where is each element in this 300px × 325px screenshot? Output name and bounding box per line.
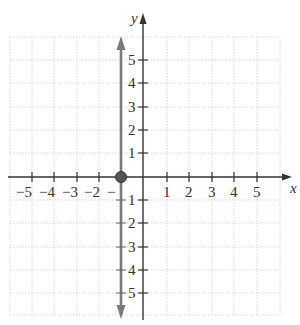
data-point [116,172,127,183]
x-tick-label: − [107,184,115,200]
line-arrow-up-icon [117,36,126,50]
y-tick-label: 5 [128,285,136,301]
x-tick-label: 3 [208,184,216,200]
x-axis-label: x [289,180,297,196]
x-tick-label: 2 [185,184,193,200]
x-tick-label: −3 [62,184,78,200]
x-tick-label: 1 [163,184,171,200]
x-tick-label: 5 [253,184,261,200]
y-tick-label: 5 [128,52,136,68]
grid [10,37,280,315]
y-tick-label: 1 [128,145,136,161]
y-tick-label: 4 [128,75,136,91]
x-tick-label: −2 [84,184,100,200]
x-axis [8,172,292,182]
y-axis-label: y [129,10,138,26]
line-arrow-down-icon [117,305,126,319]
x-tick-label: −5 [16,184,32,200]
y-tick-label: 3 [128,239,136,255]
x-tick-label: 4 [230,184,238,200]
y-axis [138,13,148,320]
y-axis-arrow-icon [140,13,147,24]
y-tick-label: 2 [128,215,136,231]
y-tick-label: 4 [128,262,136,278]
y-tick-label: 1 [128,192,136,208]
x-tick-label: −4 [39,184,55,200]
coordinate-plane: y x −5 −4 −3 −2 − 1 2 3 4 5 5 4 3 2 1 1 … [0,0,300,325]
y-tick-label: 3 [128,99,136,115]
x-tick-labels: −5 −4 −3 −2 − 1 2 3 4 5 [16,184,261,200]
y-tick-label: 2 [128,122,136,138]
